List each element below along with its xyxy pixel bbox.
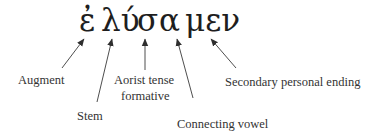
arrows [0, 0, 376, 133]
augment-arrow [62, 39, 84, 68]
aorist-label-line2: formative [121, 89, 170, 104]
aorist-label-line1: Aorist tense [114, 73, 174, 88]
stem-arrow [97, 39, 112, 102]
connecting-vowel-arrow [177, 39, 193, 98]
connecting-vowel-label: Connecting vowel [177, 117, 268, 132]
stem-label: Stem [77, 109, 103, 124]
secondary-ending-label: Secondary personal ending [225, 75, 360, 90]
augment-label: Augment [18, 73, 65, 88]
secondary-ending-arrow [211, 39, 236, 68]
